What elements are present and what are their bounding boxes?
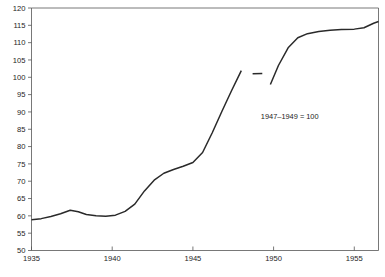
y-tick-label: 55 xyxy=(17,229,25,238)
y-tick-label: 90 xyxy=(17,108,25,117)
x-tick-label: 1950 xyxy=(265,254,282,263)
y-tick-label: 105 xyxy=(13,56,26,65)
y-tick-label: 65 xyxy=(17,194,25,203)
y-tick-label: 75 xyxy=(17,160,25,169)
x-tick-label: 1935 xyxy=(23,254,40,263)
x-tick-label: 1945 xyxy=(184,254,201,263)
y-axis-ticks: 50556065707580859095100105110115120 xyxy=(13,4,32,256)
y-tick-label: 85 xyxy=(17,125,25,134)
x-tick-label: 1955 xyxy=(346,254,363,263)
series-line-segment-1 xyxy=(32,71,242,220)
y-tick-label: 110 xyxy=(13,38,25,47)
series-line-segment-3 xyxy=(270,22,378,85)
x-axis-ticks: 19351940194519501955 xyxy=(23,247,363,264)
y-tick-label: 80 xyxy=(17,142,25,151)
x-tick-label: 1940 xyxy=(104,254,121,263)
chart-figure: 50556065707580859095100105110115120 1935… xyxy=(0,0,385,277)
y-tick-label: 120 xyxy=(13,4,26,13)
chart-annotation: 1947–1949 = 100 xyxy=(261,112,319,121)
y-tick-label: 100 xyxy=(13,73,26,82)
chart-annotations: 1947–1949 = 100 xyxy=(261,112,319,121)
y-tick-label: 95 xyxy=(17,90,25,99)
y-tick-label: 60 xyxy=(17,212,25,221)
chart-canvas: 50556065707580859095100105110115120 1935… xyxy=(0,0,385,277)
y-tick-label: 70 xyxy=(17,177,25,186)
y-tick-label: 115 xyxy=(13,21,25,30)
data-series-group xyxy=(32,22,379,220)
